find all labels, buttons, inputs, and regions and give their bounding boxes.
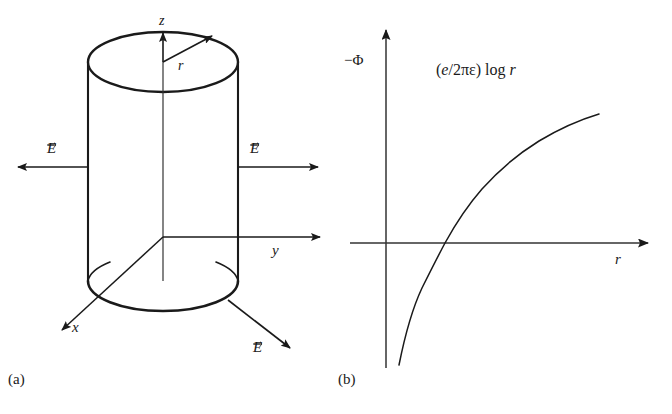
figure-root: z r y x E E bbox=[0, 0, 672, 414]
annotation-middle: /2πε) log bbox=[448, 61, 509, 78]
cylinder-bottom-back-arc-right bbox=[216, 262, 238, 281]
plot-y-axis-label: −Φ bbox=[344, 53, 363, 68]
panel-b-tag: (b) bbox=[338, 372, 356, 387]
panel-b-log-plot: −Φ (e/2πε) log r r (b) bbox=[336, 0, 672, 414]
panel-a-cylinder: z r y x E E bbox=[0, 0, 336, 414]
e-field-label-diagonal-text: E bbox=[253, 339, 262, 355]
e-field-label-right: E bbox=[250, 141, 259, 156]
x-axis-arrow bbox=[62, 237, 163, 330]
cylinder-diagram-svg bbox=[0, 0, 336, 414]
plot-x-axis-label: r bbox=[615, 252, 621, 267]
e-field-label-left-text: E bbox=[47, 140, 56, 156]
cylinder-bottom-back-arc bbox=[88, 262, 110, 281]
z-axis-label: z bbox=[159, 14, 164, 28]
radius-label: r bbox=[178, 59, 183, 73]
log-curve bbox=[399, 114, 599, 365]
y-axis-label: y bbox=[272, 243, 279, 258]
panel-a-tag: (a) bbox=[8, 372, 25, 387]
e-field-label-left: E bbox=[47, 141, 56, 156]
e-field-label-right-text: E bbox=[250, 140, 259, 156]
e-field-label-diagonal: E bbox=[253, 340, 262, 355]
plot-annotation: (e/2πε) log r bbox=[436, 62, 516, 78]
x-axis-label: x bbox=[72, 320, 79, 335]
annotation-r: r bbox=[509, 61, 515, 78]
